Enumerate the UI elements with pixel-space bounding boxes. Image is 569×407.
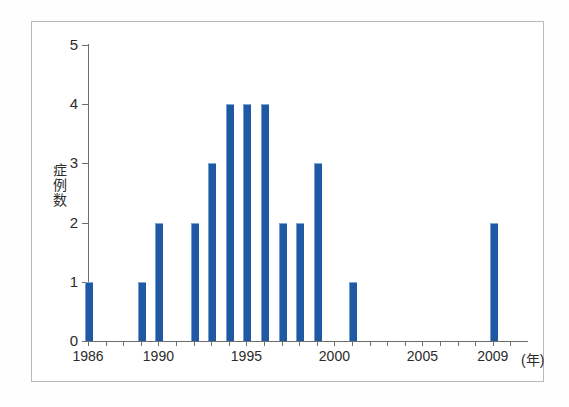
x-axis-tick — [510, 341, 511, 346]
figure-container: 012345 198619901995200020052009 症例数 (年) — [0, 0, 569, 407]
bar-2001 — [349, 282, 357, 341]
x-axis-tick — [211, 341, 212, 346]
x-axis-tick-label: 2000 — [319, 349, 350, 364]
bar-1999 — [314, 163, 322, 341]
x-axis-tick-label: 1986 — [72, 349, 103, 364]
x-axis-tick — [88, 341, 89, 346]
x-axis-tick — [194, 341, 195, 346]
bar-1994 — [226, 104, 234, 341]
x-axis-tick — [352, 341, 353, 346]
x-axis-line — [88, 341, 528, 342]
y-axis-tick-label-text: 1 — [44, 274, 78, 289]
x-axis-tick — [493, 341, 494, 346]
x-axis-tick — [141, 341, 142, 346]
y-axis-tick-label-text: 2 — [44, 215, 78, 230]
x-axis-tick — [370, 341, 371, 346]
x-axis-tick — [264, 341, 265, 346]
bar-1997 — [279, 223, 287, 341]
bar-1990 — [155, 223, 163, 341]
y-axis-tick — [82, 223, 89, 224]
bar-2009 — [490, 223, 498, 341]
y-axis-title-char: 症 — [50, 163, 70, 178]
y-axis-title-char: 数 — [50, 193, 70, 208]
y-axis-tick — [82, 163, 89, 164]
x-axis-tick — [458, 341, 459, 346]
x-axis-tick — [475, 341, 476, 346]
x-axis-tick — [123, 341, 124, 346]
x-axis-tick — [317, 341, 318, 346]
bar-1995 — [243, 104, 251, 341]
x-axis-tick — [158, 341, 159, 346]
y-axis-tick-label-text: 5 — [44, 37, 78, 52]
x-axis-tick — [229, 341, 230, 346]
y-axis-tick-label-text: 4 — [44, 96, 78, 111]
bar-1989 — [138, 282, 146, 341]
bar-chart-plot: 012345 198619901995200020052009 症例数 (年) — [0, 0, 569, 407]
y-axis-title-char: 例 — [50, 178, 70, 193]
x-axis-tick — [299, 341, 300, 346]
x-axis-tick-label: 1990 — [143, 349, 174, 364]
bar-1998 — [296, 223, 304, 341]
bar-1992 — [191, 223, 199, 341]
y-axis-title: 症例数 — [50, 163, 70, 207]
x-axis-tick — [334, 341, 335, 346]
y-axis-tick — [82, 45, 89, 46]
x-axis-tick — [422, 341, 423, 346]
bar-1993 — [208, 163, 216, 341]
x-axis-tick — [282, 341, 283, 346]
x-axis-tick — [440, 341, 441, 346]
x-axis-tick — [405, 341, 406, 346]
bar-1996 — [261, 104, 269, 341]
x-axis-tick-label: 2009 — [477, 349, 508, 364]
x-axis-tick-label: 2005 — [407, 349, 438, 364]
x-axis-tick — [387, 341, 388, 346]
x-axis-tick-label: 1995 — [231, 349, 262, 364]
x-axis-tick — [176, 341, 177, 346]
y-axis-tick-label-text: 0 — [44, 333, 78, 348]
y-axis-tick — [82, 104, 89, 105]
x-axis-tick — [106, 341, 107, 346]
bar-1986 — [85, 282, 93, 341]
x-axis-unit-label: (年) — [521, 349, 544, 369]
x-axis-tick — [246, 341, 247, 346]
